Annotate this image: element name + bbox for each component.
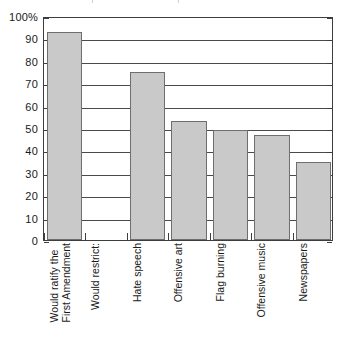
x-axis-label-line: Hate speech [131,243,143,302]
x-axis-tick [293,233,294,240]
x-axis-label-line: Newspapers [297,243,309,301]
y-axis-label: 10 [25,213,38,224]
y-axis-labels: 100%9080706050403020100 [0,17,40,241]
bar-series [44,18,332,240]
bar [47,32,82,240]
y-axis-label: 0 [32,236,38,247]
x-axis-tick [210,233,211,240]
bar [254,135,289,240]
bar [296,162,331,240]
bar-chart-figure: 100%9080706050403020100 Would ratify the… [0,0,346,344]
x-axis-tick [44,233,45,240]
y-axis-label: 90 [25,34,38,45]
y-axis-label: 40 [25,146,38,157]
x-axis-label: Offensive art [172,243,184,302]
bar [213,130,248,240]
x-axis-label: Would ratify theFirst Amendment [48,243,72,322]
x-axis-label: Hate speech [131,243,143,302]
x-axis-tick [85,233,86,240]
x-axis-label: Offensive music [255,243,267,318]
y-axis-label: 80 [25,56,38,67]
x-axis-label-line: Flag burning [214,243,226,301]
x-axis-label-line: Would ratify the [48,250,60,323]
y-axis-label: 20 [25,191,38,202]
bar [171,121,206,240]
plot-area [43,17,333,241]
x-axis-tick [127,233,128,240]
y-axis-label: 70 [25,79,38,90]
y-axis-label: 50 [25,124,38,135]
x-axis-label-line: Would restrict: [89,243,101,310]
x-axis-label-line: Offensive music [255,243,267,318]
y-axis-label: 30 [25,168,38,179]
scan-artifact [0,0,346,9]
x-axis-label-line: First Amendment [60,243,72,322]
x-axis-tick [168,233,169,240]
x-axis-label: Flag burning [214,243,226,301]
y-axis-label: 100% [9,12,38,23]
x-axis-label: Would restrict: [89,243,101,310]
y-axis-label: 60 [25,101,38,112]
bar [130,72,165,240]
x-axis-tick [251,233,252,240]
x-axis-label-line: Offensive art [172,243,184,302]
x-axis-category-labels: Would ratify theFirst AmendmentWould res… [43,243,333,344]
x-axis-label: Newspapers [297,243,309,301]
